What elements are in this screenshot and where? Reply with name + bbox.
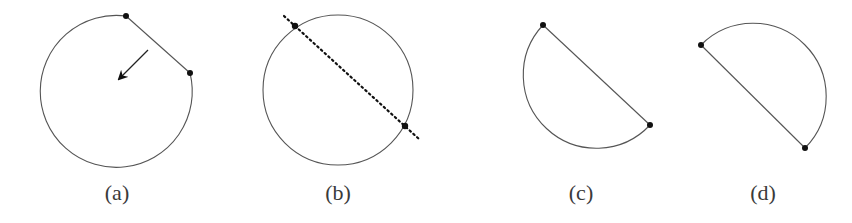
figure-c — [523, 22, 653, 148]
figure-d — [698, 23, 826, 151]
figure-a-point-2 — [187, 70, 193, 76]
arrow-icon — [119, 50, 148, 79]
figure-c-label: (c) — [569, 180, 593, 206]
figure-a-arc — [40, 15, 192, 167]
figure-a-label: (a) — [105, 180, 129, 206]
figure-d-point-2 — [802, 145, 808, 151]
figure-c-point-1 — [540, 22, 546, 28]
figure-c-point-2 — [647, 122, 653, 128]
figure-c-arc — [523, 25, 650, 148]
figure-d-point-1 — [698, 42, 704, 48]
figure-b-circle — [263, 15, 413, 165]
figure-b-point-2 — [402, 123, 408, 129]
figure-d-arc — [701, 23, 826, 148]
figure-a — [40, 13, 193, 167]
figure-b-dotted-line — [284, 16, 419, 139]
figure-b-point-1 — [292, 23, 298, 29]
figure-a-point-1 — [123, 13, 129, 19]
figure-c-chord — [543, 25, 650, 125]
figure-a-chord — [126, 16, 190, 73]
figure-d-chord — [701, 45, 805, 148]
figure-b-label: (b) — [325, 180, 351, 206]
figure-b — [263, 15, 419, 165]
figure-d-label: (d) — [750, 180, 776, 206]
